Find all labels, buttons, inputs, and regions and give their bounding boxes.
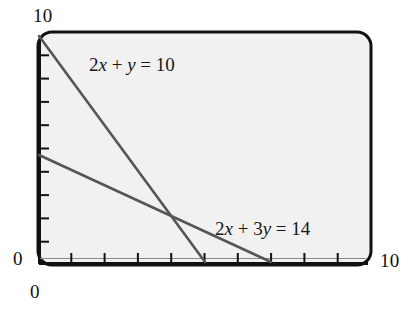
plot-canvas <box>0 0 415 311</box>
eq2-variable-y: y <box>263 218 271 239</box>
eq1-variable-y: y <box>127 54 135 75</box>
eq1-coefficient: 2 <box>89 54 99 75</box>
eq2-coefficient-2: 3 <box>253 218 263 239</box>
eq1-variable-x: x <box>99 54 107 75</box>
y-axis-max-label: 10 <box>33 6 52 25</box>
eq1-equals: = <box>136 54 156 75</box>
eq2-value: 14 <box>291 218 310 239</box>
equation-label-line-2: 2x + 3y = 14 <box>215 219 310 238</box>
x-axis-max-label: 10 <box>380 251 399 270</box>
eq2-coefficient: 2 <box>215 218 225 239</box>
equation-label-line-1: 2x + y = 10 <box>89 55 175 74</box>
eq2-equals: = <box>271 218 291 239</box>
x-axis-min-label: 0 <box>30 282 40 301</box>
eq1-operator: + <box>107 54 127 75</box>
figure-container: 10 0 0 10 2x + y = 10 2x + 3y = 14 <box>0 0 415 311</box>
eq2-variable-x: x <box>225 218 233 239</box>
y-axis-min-label: 0 <box>13 249 23 268</box>
eq2-operator: + <box>233 218 253 239</box>
eq1-value: 10 <box>156 54 175 75</box>
